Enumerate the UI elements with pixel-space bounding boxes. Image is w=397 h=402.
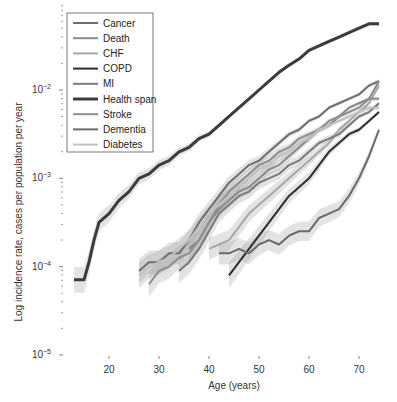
y-axis: 10−210−310−410−5 bbox=[32, 6, 63, 360]
y-tick-label: 10−5 bbox=[32, 348, 51, 360]
legend-label: Cancer bbox=[103, 18, 136, 29]
y-axis-title: Log incidence rate, cases per population… bbox=[13, 102, 24, 322]
legend-label: Dementia bbox=[103, 124, 146, 135]
incidence-chart: 10−210−310−410−5 203040506070 Age (years… bbox=[0, 0, 397, 402]
x-tick-label: 60 bbox=[303, 364, 315, 375]
legend-label: Health span bbox=[103, 94, 156, 105]
legend-label: Death bbox=[103, 33, 130, 44]
legend-label: CHF bbox=[103, 48, 124, 59]
x-tick-label: 70 bbox=[353, 364, 365, 375]
legend: CancerDeathCHFCOPDMIHealth spanStrokeDem… bbox=[67, 13, 156, 152]
y-tick-label: 10−2 bbox=[32, 83, 51, 95]
legend-label: COPD bbox=[103, 63, 132, 74]
y-tick-label: 10−4 bbox=[32, 260, 51, 272]
y-tick-label: 10−3 bbox=[32, 171, 51, 183]
x-tick-label: 40 bbox=[203, 364, 215, 375]
x-axis: 203040506070 bbox=[103, 356, 365, 375]
x-tick-label: 30 bbox=[153, 364, 165, 375]
legend-label: Diabetes bbox=[103, 139, 142, 150]
x-axis-title: Age (years) bbox=[208, 380, 260, 391]
legend-label: Stroke bbox=[103, 109, 132, 120]
legend-label: MI bbox=[103, 78, 114, 89]
x-tick-label: 20 bbox=[103, 364, 115, 375]
x-tick-label: 50 bbox=[253, 364, 265, 375]
